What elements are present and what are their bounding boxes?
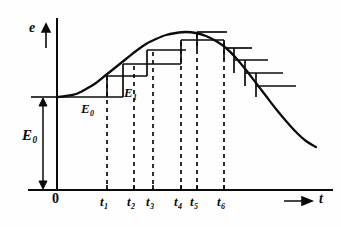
e0-bracket-arrow-up-icon [39, 98, 47, 106]
x-tick-subscript-5: 5 [194, 202, 198, 211]
energy-step-diagram: e t 0 E0 E0 E1 t1t2t3t4t5t6 [0, 0, 341, 227]
x-tick-subscript-4: 4 [178, 202, 182, 211]
x-tick-label-4: t4 [174, 195, 182, 208]
x-tick-subscript-3: 3 [150, 202, 154, 211]
x-tick-label-2: t2 [127, 195, 135, 208]
x-tick-subscript-1: 1 [104, 202, 108, 211]
x-axis-label: t [319, 192, 323, 206]
x-axis-arrow-icon [284, 197, 312, 205]
x-tick-label-1: t1 [100, 195, 108, 208]
y-axis-label: e [29, 21, 35, 35]
dashed-droplines-group [107, 34, 224, 190]
e1-step-base: E [124, 85, 133, 100]
e0-step-base: E [81, 101, 90, 116]
x-tick-label-3: t3 [146, 195, 154, 208]
origin-label: 0 [52, 192, 59, 206]
e0-step-subscript: 0 [90, 109, 94, 118]
x-tick-label-6: t6 [217, 195, 225, 208]
e0-bracket-base: E [22, 127, 32, 143]
x-tick-subscript-6: 6 [221, 202, 225, 211]
y-axis-arrow-icon [42, 24, 50, 48]
e0-bracket-subscript: 0 [32, 135, 37, 145]
e0-bracket-arrow-down-icon [39, 181, 47, 189]
response-curve [57, 32, 316, 147]
e1-step-label: E1 [124, 86, 137, 99]
curve-group [57, 32, 316, 147]
x-tick-subscript-2: 2 [131, 202, 135, 211]
e0-bracket-label: E0 [22, 128, 37, 143]
e1-step-subscript: 1 [133, 93, 137, 102]
x-tick-label-5: t5 [190, 195, 198, 208]
e0-step-label: E0 [81, 102, 94, 115]
